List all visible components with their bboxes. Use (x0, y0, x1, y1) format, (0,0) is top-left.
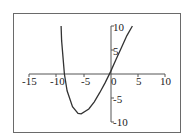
x-tick-label: 0 (111, 75, 117, 87)
x-tick-label: 5 (136, 75, 142, 87)
y-tick-label: -10 (113, 116, 128, 128)
y-tick-label: 10 (113, 21, 125, 33)
x-tick-label: 10 (160, 75, 172, 87)
plot-area: -15 -10 -5 0 5 10 10 5 -5 -10 (0, 0, 191, 140)
x-tick-label: -15 (22, 75, 37, 87)
x-tick-label: -10 (50, 75, 65, 87)
x-tick-label: -5 (81, 75, 91, 87)
y-tick-label: -5 (113, 93, 123, 105)
